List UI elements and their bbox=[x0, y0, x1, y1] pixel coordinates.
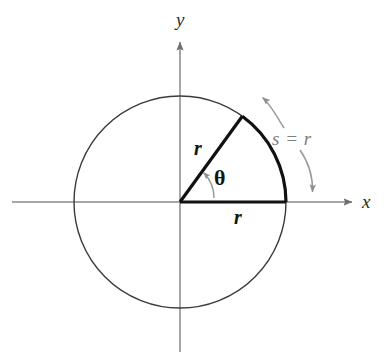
horizontal-radius-label: r bbox=[234, 207, 242, 227]
angle-theta-label: θ bbox=[214, 167, 225, 189]
terminal-radius-segment bbox=[180, 116, 242, 202]
y-axis-label: y bbox=[176, 10, 184, 29]
arc-bottom-pointer bbox=[300, 150, 313, 192]
terminal-radius-label: r bbox=[194, 138, 202, 158]
arc-length-label: s = r bbox=[272, 129, 312, 148]
arc-top-pointer bbox=[263, 98, 285, 129]
x-axis-label: x bbox=[362, 192, 370, 211]
radian-measure-figure: y x r r θ s = r bbox=[0, 0, 392, 364]
figure-canvas bbox=[0, 0, 392, 364]
angle-indicator-arc bbox=[204, 173, 215, 199]
